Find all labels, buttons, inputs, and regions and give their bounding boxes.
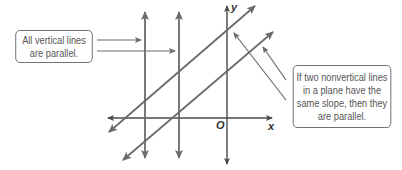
callout-nonvertical-line-2: in a plane have the [294, 84, 391, 97]
callout-nonvertical-line-1: If two nonvertical lines [294, 71, 391, 84]
origin-label: O [216, 119, 225, 131]
callout-vertical-line-1: All vertical lines [16, 34, 92, 47]
callout-nonvertical-line-4: are parallel. [294, 110, 391, 123]
callout-vertical-lines: All vertical lines are parallel. [15, 30, 92, 63]
callout-vertical-line-2: are parallel. [16, 47, 92, 60]
callout-nonvertical-lines: If two nonvertical lines in a plane have… [293, 65, 392, 128]
callout-nonvertical-line-3: same slope, then they [294, 97, 391, 110]
y-axis-label: y [231, 1, 237, 13]
x-axis-label: x [268, 120, 274, 132]
nonvertical-line-1 [109, 6, 255, 132]
